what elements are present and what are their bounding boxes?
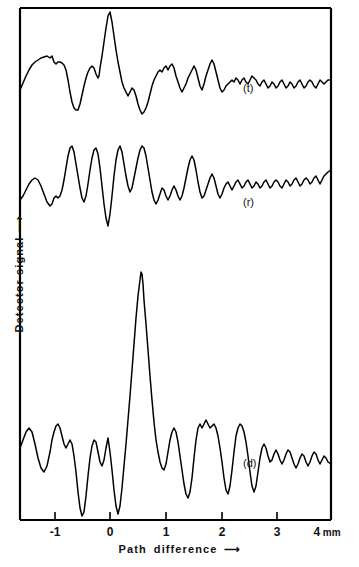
x-axis-arrow-icon: ⟶	[224, 543, 240, 556]
y-axis-arrow-icon: ⟶	[13, 216, 26, 232]
trace-curve-r	[20, 146, 331, 226]
trace-curve-t	[20, 12, 331, 114]
x-tick-label-1: 0	[88, 525, 132, 539]
x-axis-ticks	[55, 512, 277, 520]
x-axis-title-word-2: difference	[154, 543, 218, 555]
y-axis-title-text: Detector signal	[13, 237, 25, 333]
plot-canvas	[0, 0, 359, 567]
x-tick-label-0: -1	[33, 525, 77, 539]
trace-label-r: (r)	[243, 196, 254, 208]
trace-label-d: (d)	[243, 457, 256, 469]
y-axis-title: Detector signal ⟶	[13, 190, 26, 360]
x-axis-title: Pathdifference⟶	[0, 543, 359, 556]
x-axis-title-word-1: Path	[119, 543, 147, 555]
trace-curve-d	[20, 272, 331, 516]
trace-label-t: (t)	[243, 82, 253, 94]
interferogram-figure: Pathdifference⟶ Detector signal ⟶ -10123…	[0, 0, 359, 567]
x-tick-label-5: 4 mm	[301, 525, 353, 539]
x-tick-label-4: 3	[255, 525, 299, 539]
x-axis-unit-label: mm	[320, 527, 341, 538]
x-tick-label-2: 1	[144, 525, 188, 539]
x-tick-label-3: 2	[200, 525, 244, 539]
trace-curves	[20, 12, 331, 516]
